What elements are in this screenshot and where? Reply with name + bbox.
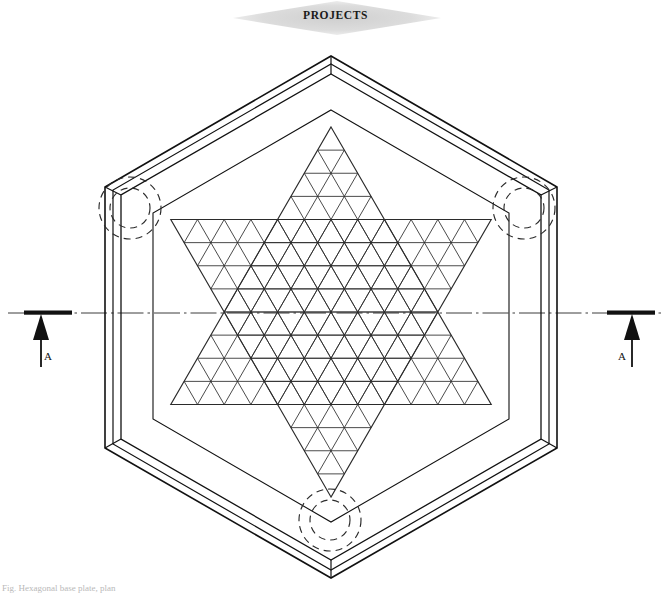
detail-circle-upper-left-inner bbox=[110, 188, 150, 228]
detail-circle-upper-left-outer bbox=[99, 177, 161, 239]
detail-circle-bottom-inner bbox=[310, 500, 350, 540]
section-arrowhead-right bbox=[624, 314, 640, 340]
hexagonal-frame bbox=[105, 56, 557, 578]
detail-circle-upper-right-inner bbox=[504, 188, 544, 228]
hexagram-truss-mesh bbox=[171, 127, 491, 497]
frame-outer-edge bbox=[105, 56, 557, 578]
section-label-right: A bbox=[618, 350, 626, 362]
section-marker-right bbox=[607, 311, 655, 368]
frame-thickness-edge bbox=[113, 64, 549, 570]
frame-inner-rim bbox=[121, 74, 541, 560]
drawing-canvas: PROJECTS A A Fig. Hexagonal base plate, … bbox=[0, 0, 671, 593]
section-label-left: A bbox=[44, 350, 52, 362]
section-bar-left bbox=[24, 311, 72, 315]
detail-circle-bottom-outer bbox=[299, 489, 361, 551]
banner-diamond-shape bbox=[233, 1, 441, 35]
section-arrowhead-left bbox=[33, 314, 49, 340]
section-bar-right bbox=[607, 311, 655, 315]
frame-bevel-connectors bbox=[105, 56, 557, 578]
figure-caption: Fig. Hexagonal base plate, plan bbox=[2, 583, 115, 593]
technical-drawing-svg bbox=[0, 0, 671, 593]
detail-circle-group bbox=[99, 177, 555, 551]
detail-circle-upper-right-outer bbox=[493, 177, 555, 239]
projects-banner bbox=[233, 1, 441, 35]
frame-cavity-outline bbox=[153, 110, 509, 522]
